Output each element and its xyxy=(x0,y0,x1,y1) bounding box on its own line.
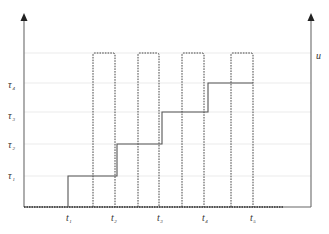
t5-label: t5 xyxy=(250,212,256,224)
pulse-3 xyxy=(182,53,204,207)
t2-label: t2 xyxy=(111,212,117,224)
t3-label: t3 xyxy=(157,212,163,224)
t4-label: t4 xyxy=(202,212,208,224)
u-axis-label: u xyxy=(316,50,321,61)
right-axis-arrow-icon xyxy=(308,13,315,21)
pulse-4 xyxy=(231,53,253,207)
pulse-2 xyxy=(138,53,159,207)
pulse-1 xyxy=(93,53,115,207)
left-axis-arrow-icon xyxy=(21,13,28,21)
control-pulses xyxy=(93,53,253,207)
time-labels: t1 t2 t3 t4 t5 xyxy=(66,212,256,224)
grid-lines xyxy=(24,53,311,176)
t1-label: t1 xyxy=(66,212,72,224)
tau2-label: τ2 xyxy=(8,139,16,151)
tau3-label: τ3 xyxy=(8,110,16,122)
timing-diagram: τ1 τ2 τ3 τ4 t1 t2 t3 t4 t5 u xyxy=(0,0,329,234)
tau4-label: τ4 xyxy=(8,79,16,91)
y-level-labels: τ1 τ2 τ3 τ4 xyxy=(8,79,16,182)
tau1-label: τ1 xyxy=(8,170,15,182)
staircase-signal xyxy=(68,83,253,207)
